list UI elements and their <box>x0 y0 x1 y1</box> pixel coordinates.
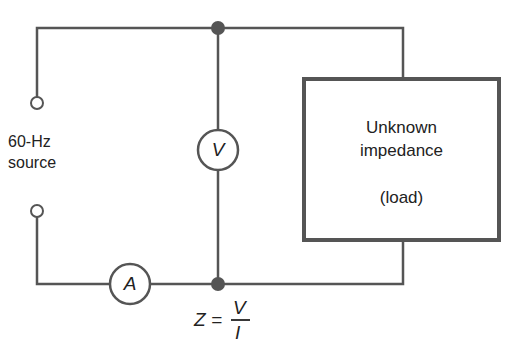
source-terminal-bottom <box>31 205 43 217</box>
load-label-line1: Unknown <box>303 116 500 140</box>
circuit-diagram: 60-Hz source Unknown impedance (load) V … <box>0 0 516 359</box>
bottom-wire-left <box>37 217 110 284</box>
source-terminal-top <box>31 97 43 109</box>
circuit-wiring <box>0 0 516 359</box>
formula-denominator: I <box>235 322 240 344</box>
ammeter-symbol: A <box>115 273 145 295</box>
voltmeter-symbol: V <box>203 139 233 161</box>
source-label: 60-Hz source <box>8 131 56 173</box>
load-label-line2: impedance <box>303 139 500 163</box>
formula-numerator: V <box>233 297 246 319</box>
load-label-line3: (load) <box>303 186 500 210</box>
source-label-line2: source <box>8 152 56 173</box>
junction-bottom <box>211 277 225 291</box>
source-label-line1: 60-Hz <box>8 131 56 152</box>
bottom-wire-right <box>150 241 403 284</box>
formula-lhs: Z = <box>194 309 222 331</box>
junction-top <box>211 21 225 35</box>
